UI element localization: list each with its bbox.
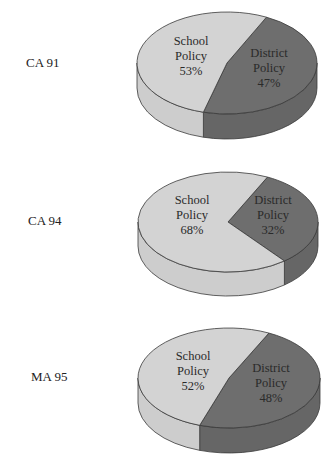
district-policy-label: District	[252, 361, 290, 375]
district-policy-label: 48%	[260, 391, 283, 405]
pie-chart-ma-95: SchoolPolicy52%DistrictPolicy48%	[0, 0, 334, 469]
school-policy-label: Policy	[177, 364, 210, 378]
school-policy-label: 52%	[182, 379, 205, 393]
district-policy-label: Policy	[255, 376, 288, 390]
school-policy-label: School	[176, 349, 211, 363]
